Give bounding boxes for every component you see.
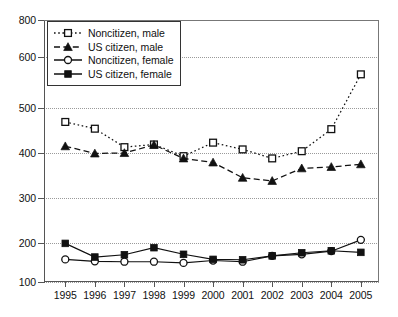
- y-tick-label-200: 200: [2, 237, 36, 249]
- x-tick-label-2004: 2004: [320, 289, 343, 301]
- x-tick-label-1997: 1997: [113, 289, 136, 301]
- x-tick-label-2001: 2001: [231, 289, 254, 301]
- legend-item-us-citizen-female: US citizen, female: [53, 67, 173, 80]
- x-tick-label-1995: 1995: [54, 289, 77, 301]
- y-tick-label-600: 600: [2, 51, 36, 63]
- x-tick-mark-1998: [154, 282, 155, 287]
- y-tick-label-300: 300: [2, 192, 36, 204]
- x-tick-mark-2004: [331, 282, 332, 287]
- x-tick-mark-1996: [95, 282, 96, 287]
- chart-legend: Noncitizen, male US citizen, male Noncit…: [47, 21, 181, 86]
- legend-swatch-noncitizen-male: [53, 27, 83, 39]
- x-tick-mark-1997: [124, 282, 125, 287]
- x-tick-label-1996: 1996: [83, 289, 106, 301]
- x-tick-mark-2001: [243, 282, 244, 287]
- x-tick-label-2002: 2002: [261, 289, 284, 301]
- legend-label-us-citizen-male: US citizen, male: [88, 41, 163, 53]
- legend-item-noncitizen-male: Noncitizen, male: [53, 27, 173, 40]
- x-tick-label-1998: 1998: [142, 289, 165, 301]
- legend-item-us-citizen-male: US citizen, male: [53, 40, 173, 53]
- x-tick-mark-2003: [302, 282, 303, 287]
- x-tick-label-2003: 2003: [290, 289, 313, 301]
- legend-label-noncitizen-male: Noncitizen, male: [88, 27, 165, 39]
- legend-item-noncitizen-female: Noncitizen, female: [53, 54, 173, 67]
- x-tick-label-2000: 2000: [202, 289, 225, 301]
- legend-swatch-us-citizen-female: [53, 68, 83, 80]
- legend-swatch-noncitizen-female: [53, 54, 83, 66]
- legend-swatch-us-citizen-male: [53, 41, 83, 53]
- x-tick-mark-1999: [184, 282, 185, 287]
- plot-frame-right: [378, 20, 379, 282]
- y-tick-label-800: 800: [2, 14, 36, 26]
- legend-label-noncitizen-female: Noncitizen, female: [88, 54, 173, 66]
- line-chart: 1002003004005006008001995199619971998199…: [0, 0, 398, 317]
- x-tick-mark-2000: [213, 282, 214, 287]
- x-tick-mark-2002: [272, 282, 273, 287]
- legend-label-us-citizen-female: US citizen, female: [88, 68, 172, 80]
- y-tick-label-100: 100: [2, 276, 36, 288]
- x-tick-mark-1995: [65, 282, 66, 287]
- x-tick-label-2005: 2005: [349, 289, 372, 301]
- y-tick-mark-100: [38, 282, 45, 283]
- x-tick-mark-2005: [361, 282, 362, 287]
- x-tick-label-1999: 1999: [172, 289, 195, 301]
- y-tick-label-500: 500: [2, 102, 36, 114]
- y-tick-label-400: 400: [2, 147, 36, 159]
